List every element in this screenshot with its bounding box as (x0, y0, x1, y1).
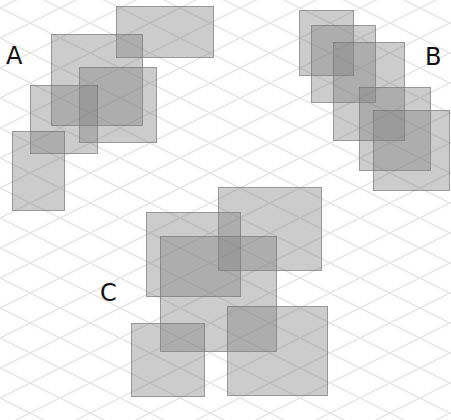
group-c-label: C (100, 281, 117, 305)
group-c-rect-4 (227, 306, 328, 396)
group-b-label: B (425, 45, 441, 69)
group-a-rect-5 (12, 131, 65, 211)
group-b-rect-5 (373, 110, 450, 191)
group-c-rect-5 (131, 323, 205, 397)
group-a-label: A (6, 44, 22, 68)
diagram-canvas: A B C (0, 0, 451, 420)
